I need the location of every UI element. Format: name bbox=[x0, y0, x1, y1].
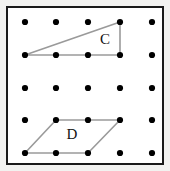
grid-dot-r0-c4 bbox=[149, 19, 155, 25]
grid-dot-r4-c2 bbox=[85, 150, 91, 156]
grid-dot-r1-c4 bbox=[149, 52, 155, 58]
grid-dot-r4-c4 bbox=[149, 150, 155, 156]
grid-dot-r2-c3 bbox=[117, 85, 123, 91]
grid-dot-r0-c2 bbox=[85, 19, 91, 25]
grid-dot-r3-c1 bbox=[53, 117, 59, 123]
grid-dot-r0-c3 bbox=[117, 19, 123, 25]
grid-dot-r2-c2 bbox=[85, 85, 91, 91]
grid-dot-r1-c0 bbox=[22, 52, 28, 58]
shape-d-label: D bbox=[67, 126, 78, 142]
grid-dot-r1-c3 bbox=[117, 52, 123, 58]
grid-dot-r0-c1 bbox=[53, 19, 59, 25]
grid-dot-r4-c3 bbox=[117, 150, 123, 156]
grid-dot-r4-c0 bbox=[22, 150, 28, 156]
grid-dot-r2-c1 bbox=[53, 85, 59, 91]
grid-dot-r0-c0 bbox=[22, 19, 28, 25]
shapes-and-dots-layer: CD bbox=[0, 0, 170, 171]
grid-dot-r3-c4 bbox=[149, 117, 155, 123]
grid-dot-r2-c0 bbox=[22, 85, 28, 91]
grid-dot-r3-c3 bbox=[117, 117, 123, 123]
grid-dot-r1-c2 bbox=[85, 52, 91, 58]
grid-dot-r1-c1 bbox=[53, 52, 59, 58]
shape-c-label: C bbox=[100, 31, 110, 47]
grid-dot-r2-c4 bbox=[149, 85, 155, 91]
grid-dot-r3-c2 bbox=[85, 117, 91, 123]
geoboard-figure: CD bbox=[0, 0, 170, 171]
grid-dot-r3-c0 bbox=[22, 117, 28, 123]
grid-dot-r4-c1 bbox=[53, 150, 59, 156]
